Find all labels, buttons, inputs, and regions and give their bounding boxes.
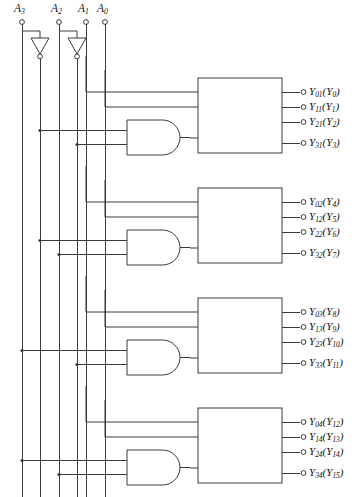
output-terminal-decoder-1-2 [301, 120, 306, 125]
data-input-A0-decoder-3 [105, 290, 198, 327]
output-terminal-decoder-1-0 [301, 90, 306, 95]
data-input-A0-decoder-2 [105, 180, 198, 217]
output-terminal-decoder-4-3 [301, 471, 306, 476]
input-terminal-A3 [20, 20, 25, 25]
decoder-circuit-figure: A3A2A1A0Y01(Y0)Y11(Y1)Y21(Y2)Y31(Y3)Y02(… [0, 0, 358, 497]
output-label-decoder-3-0: Y03(Y8) [309, 305, 340, 319]
input-label-A2: A2 [51, 2, 62, 16]
decoder-box-decoder-2 [198, 188, 282, 263]
decoder-box-decoder-1 [198, 78, 282, 153]
input-label-A1: A1 [78, 2, 89, 16]
data-input-A0-decoder-4 [105, 400, 198, 437]
data-input-A1-decoder-4 [86, 386, 198, 422]
inverter-triangle-A2 [68, 38, 86, 54]
data-input-A1-decoder-3 [86, 276, 198, 312]
and-gate-body-and-gate-4 [127, 450, 180, 485]
and-gate-body-and-gate-2 [127, 230, 180, 265]
inverter-input-A3 [22, 31, 40, 38]
output-terminal-decoder-2-1 [301, 215, 306, 220]
output-label-decoder-2-1: Y12(Y5) [309, 210, 340, 224]
output-label-decoder-4-0: Y04(Y12) [309, 415, 344, 429]
output-label-decoder-4-1: Y14(Y13) [309, 430, 344, 444]
output-label-decoder-3-2: Y23(Y10) [309, 335, 344, 349]
inverter-bubble-A3 [38, 54, 43, 59]
enable-wire-decoder-4 [180, 468, 198, 469]
output-terminal-decoder-1-3 [301, 141, 306, 146]
input-label-A3: A3 [14, 2, 25, 16]
output-label-decoder-1-2: Y21(Y2) [309, 115, 340, 129]
output-label-decoder-1-3: Y31(Y3) [309, 136, 340, 150]
junction-and-gate-1-A2-not [75, 143, 78, 146]
output-label-decoder-2-0: Y02(Y4) [309, 195, 340, 209]
output-terminal-decoder-3-3 [301, 361, 306, 366]
data-input-A0-decoder-1 [105, 70, 198, 107]
output-label-decoder-2-2: Y22(Y6) [309, 225, 340, 239]
inverter-input-A2 [59, 31, 77, 38]
enable-wire-decoder-3 [180, 358, 198, 359]
and-gate-body-and-gate-3 [127, 340, 180, 375]
input-terminal-A1 [84, 20, 89, 25]
and-gate-body-and-gate-1 [127, 120, 180, 155]
enable-wire-decoder-1 [180, 138, 198, 139]
enable-wire-decoder-2 [180, 248, 198, 249]
output-terminal-decoder-1-1 [301, 105, 306, 110]
junction-and-gate-4-A3 [20, 459, 23, 462]
output-label-decoder-4-3: Y34(Y15) [309, 466, 344, 480]
decoder-box-decoder-3 [198, 298, 282, 373]
output-terminal-decoder-3-0 [301, 310, 306, 315]
junction-and-gate-3-A2-not [75, 363, 78, 366]
junction-and-gate-2-A2 [57, 253, 60, 256]
decoder-box-decoder-4 [198, 408, 282, 483]
output-terminal-decoder-2-3 [301, 251, 306, 256]
junction-and-gate-3-A3 [20, 349, 23, 352]
junction-and-gate-4-A2 [57, 473, 60, 476]
output-terminal-decoder-4-2 [301, 450, 306, 455]
junction-and-gate-2-A3-not [38, 239, 41, 242]
output-terminal-decoder-4-1 [301, 435, 306, 440]
output-terminal-decoder-3-1 [301, 325, 306, 330]
input-label-A0: A0 [97, 2, 108, 16]
input-terminal-A2 [57, 20, 62, 25]
output-label-decoder-2-3: Y32(Y7) [309, 246, 340, 260]
output-terminal-decoder-2-0 [301, 200, 306, 205]
output-terminal-decoder-3-2 [301, 340, 306, 345]
output-label-decoder-4-2: Y24(Y14) [309, 445, 344, 459]
output-label-decoder-1-1: Y11(Y1) [309, 100, 339, 114]
circuit-wiring [0, 0, 358, 497]
output-terminal-decoder-4-0 [301, 420, 306, 425]
input-terminal-A0 [103, 20, 108, 25]
junction-and-gate-1-A3-not [38, 129, 41, 132]
data-input-A1-decoder-2 [86, 166, 198, 202]
inverter-bubble-A2 [75, 54, 80, 59]
output-label-decoder-3-3: Y33(Y11) [309, 356, 343, 370]
output-terminal-decoder-2-2 [301, 230, 306, 235]
output-label-decoder-3-1: Y13(Y9) [309, 320, 340, 334]
inverter-triangle-A3 [31, 38, 49, 54]
output-label-decoder-1-0: Y01(Y0) [309, 85, 340, 99]
data-input-A1-decoder-1 [86, 56, 198, 92]
